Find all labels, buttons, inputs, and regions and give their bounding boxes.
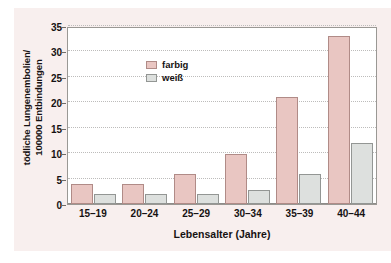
bar-farbig-25-29 <box>174 174 196 205</box>
bar-group <box>174 174 219 205</box>
x-tick-label-40-44: 40–44 <box>321 208 381 219</box>
bar-wei-30-34 <box>248 190 270 204</box>
y-axis-title-line1: tödliche Lungenembolien/ <box>21 13 33 203</box>
y-tick-mark-10 <box>61 154 66 155</box>
legend: farbig weiß <box>146 59 188 83</box>
chart-figure: tödliche Lungenembolien/ 100000 Entbindu… <box>0 0 391 263</box>
y-tick-mark-5 <box>61 180 66 181</box>
legend-swatch-icon-farbig <box>146 61 157 69</box>
bar-farbig-30-34 <box>225 154 247 204</box>
y-tick-mark-20 <box>61 103 66 104</box>
bar-group <box>328 36 373 204</box>
y-tick-label-10: 10 <box>36 149 62 160</box>
y-tick-mark-30 <box>61 52 66 53</box>
legend-label-farbig: farbig <box>162 59 188 70</box>
plot-area: farbig weiß <box>67 27 377 205</box>
bar-groups <box>68 28 376 204</box>
bar-farbig-20-24 <box>122 184 144 204</box>
bar-wei-25-29 <box>197 194 219 204</box>
y-tick-label-30: 30 <box>36 47 62 58</box>
y-tick-mark-35 <box>61 27 66 28</box>
legend-swatch-icon-weiss <box>146 74 157 82</box>
bar-wei-15-19 <box>94 194 116 204</box>
bar-group <box>225 154 270 204</box>
bar-group <box>71 184 116 204</box>
bar-farbig-40-44 <box>328 36 350 204</box>
y-tick-label-35: 35 <box>36 22 62 33</box>
y-tick-label-20: 20 <box>36 98 62 109</box>
y-tick-mark-25 <box>61 78 66 79</box>
y-tick-label-5: 5 <box>36 174 62 185</box>
bar-group <box>276 97 321 204</box>
bar-farbig-35-39 <box>276 97 298 204</box>
y-tick-mark-0 <box>61 205 66 206</box>
gridline-35 <box>68 25 376 26</box>
bar-wei-20-24 <box>145 194 167 204</box>
bar-wei-35-39 <box>299 174 321 205</box>
bar-group <box>122 184 167 204</box>
y-tick-label-15: 15 <box>36 123 62 134</box>
bar-farbig-15-19 <box>71 184 93 204</box>
y-tick-mark-15 <box>61 129 66 130</box>
bar-wei-40-44 <box>351 143 373 204</box>
legend-label-weiss: weiß <box>162 72 183 83</box>
y-tick-label-25: 25 <box>36 72 62 83</box>
legend-item-farbig: farbig <box>146 59 188 70</box>
x-axis-title: Lebensalter (Jahre) <box>67 228 377 240</box>
legend-item-weiss: weiß <box>146 72 188 83</box>
y-tick-label-0: 0 <box>36 200 62 211</box>
